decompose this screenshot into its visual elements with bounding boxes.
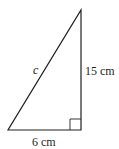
right-triangle <box>8 10 81 130</box>
base-label: 6 cm <box>32 135 56 149</box>
triangle-diagram: c 15 cm 6 cm <box>0 0 119 149</box>
hypotenuse-label: c <box>33 63 39 77</box>
height-label: 15 cm <box>85 64 115 78</box>
right-angle-marker <box>70 119 81 130</box>
